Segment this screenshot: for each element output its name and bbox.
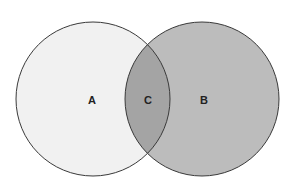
label-a: A	[88, 94, 96, 106]
label-c: C	[144, 94, 152, 106]
venn-diagram: A C B	[0, 0, 295, 187]
label-b: B	[200, 94, 208, 106]
